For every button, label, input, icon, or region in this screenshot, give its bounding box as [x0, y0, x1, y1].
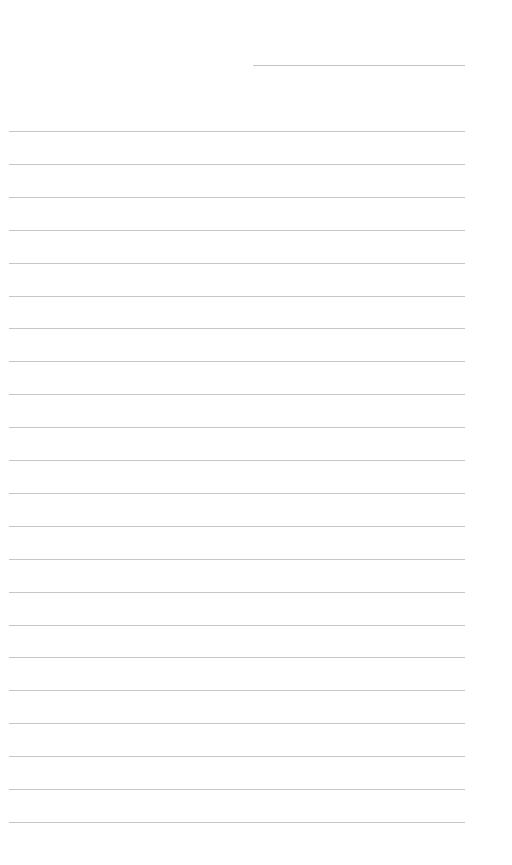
writing-line[interactable]	[9, 789, 465, 790]
writing-line[interactable]	[9, 361, 465, 362]
writing-line[interactable]	[9, 394, 465, 395]
writing-line[interactable]	[9, 822, 465, 823]
writing-line[interactable]	[9, 230, 465, 231]
writing-line[interactable]	[9, 328, 465, 329]
writing-line[interactable]	[9, 164, 465, 165]
writing-line[interactable]	[9, 657, 465, 658]
writing-line[interactable]	[9, 263, 465, 264]
writing-line[interactable]	[9, 131, 465, 132]
writing-line[interactable]	[9, 756, 465, 757]
writing-line[interactable]	[9, 625, 465, 626]
writing-line[interactable]	[9, 296, 465, 297]
writing-line[interactable]	[9, 460, 465, 461]
writing-line[interactable]	[9, 723, 465, 724]
writing-line[interactable]	[9, 592, 465, 593]
writing-line[interactable]	[9, 526, 465, 527]
writing-line[interactable]	[9, 493, 465, 494]
writing-line[interactable]	[9, 559, 465, 560]
writing-line[interactable]	[9, 197, 465, 198]
writing-line[interactable]	[9, 427, 465, 428]
ruled-lines	[0, 0, 512, 865]
writing-line[interactable]	[9, 690, 465, 691]
